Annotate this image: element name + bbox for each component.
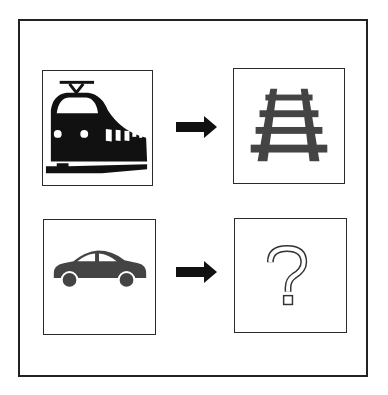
train-cell [42, 70, 153, 186]
arrow-right-icon [176, 261, 218, 283]
railway-track-cell [233, 68, 345, 184]
arrow-right-icon [176, 116, 218, 138]
train-icon [43, 71, 152, 185]
railway-track-icon [234, 69, 344, 183]
car-icon [44, 220, 155, 334]
answer-cell [234, 218, 347, 333]
question-mark-icon [235, 219, 346, 332]
car-cell [43, 219, 156, 335]
